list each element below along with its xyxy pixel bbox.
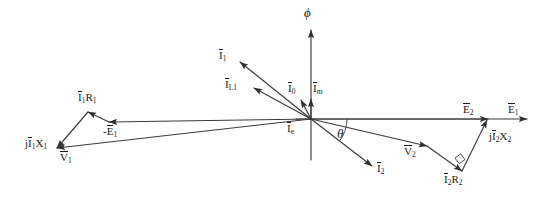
IL1-label: IL1	[225, 79, 237, 90]
E2-label: E2	[463, 104, 473, 115]
Ie-label: Ie	[287, 123, 294, 134]
jI1X1-label: jI1X1	[25, 138, 47, 149]
I2R2-phasor	[427, 146, 462, 171]
decoration-layer	[340, 119, 465, 164]
I2R2-label: I2R2	[444, 174, 463, 185]
I1R1-label: I1R1	[78, 92, 97, 103]
jI2X2-phasor	[462, 120, 487, 171]
jI1X1-phasor	[57, 112, 88, 148]
I1-phasor	[240, 62, 311, 119]
V1-phasor	[57, 119, 311, 148]
right-angle-marker	[455, 154, 465, 164]
negE1-label: -E1	[103, 126, 117, 137]
negE1-phasor	[109, 119, 311, 122]
Im-label: Im	[313, 83, 323, 94]
V2-label: V2	[404, 146, 416, 157]
phasor-diagram-root: ϕ θ I1 IL1 I0 Im Ie I2 E1 E2 -E1 V1 V2 I…	[0, 0, 533, 198]
I0-label: I0	[288, 83, 295, 94]
theta-label: θ	[337, 127, 343, 140]
flux-label: ϕ	[304, 6, 311, 19]
vector-layer	[57, 30, 527, 171]
I1-label: I1	[219, 50, 226, 61]
I2-label: I2	[377, 163, 384, 174]
jI2X2-label: jI2X2	[489, 131, 511, 142]
I1R1-phasor	[88, 112, 109, 122]
E1-label: E1	[508, 104, 518, 115]
V1-label: V1	[60, 152, 72, 163]
